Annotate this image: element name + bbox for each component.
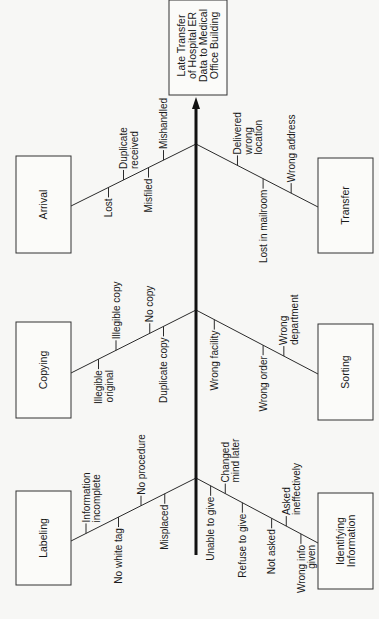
fishbone-canvas: Late Transferof Hospital ERData to Medic… [0, 0, 379, 619]
cause-label-line: Illegible copy [111, 282, 122, 340]
cause-label-line: Lost in mailroom [258, 190, 269, 263]
cause-label-line: department [289, 294, 300, 345]
cause-label: Wrongdepartment [278, 294, 300, 345]
cause-label-line: Asked [281, 487, 292, 515]
cause-label-line: Duplicate [118, 127, 129, 169]
cause-label-line: received [129, 131, 140, 169]
category-label: Copying [37, 351, 49, 390]
cause-label: Mishandled [158, 98, 169, 149]
category-sorting: SortingWrong facilityWrong orderWrongdep… [209, 294, 373, 420]
cause-label-line: wrong [243, 127, 254, 155]
effect-box: Late Transferof Hospital ERData to Medic… [169, 0, 227, 95]
cause-label: Wrong order [258, 356, 269, 412]
cause-label: Duplicate copy [158, 337, 169, 403]
category-label: IdentifyingInformation [334, 515, 357, 568]
cause-label-line: Refuse to give [237, 513, 248, 577]
cause-label-line: Illegible [93, 370, 104, 404]
category-label-line: Copying [37, 351, 49, 390]
category-copying: CopyingIllegibleoriginalIllegible copyNo… [16, 282, 169, 418]
cause-label-line: Wrong info [296, 544, 307, 593]
cause-label-line: Duplicate copy [158, 337, 169, 403]
category-arrival: ArrivalLostDuplicatereceivedMisfiledMish… [16, 98, 169, 253]
category-label-line: Labeling [37, 518, 49, 558]
effect-label-line: Office Building [208, 12, 220, 80]
cause-label-line: Misplaced [159, 505, 170, 550]
cause-label: No white tag [113, 528, 124, 584]
cause-label: Wrong address [286, 114, 297, 182]
cause-label-line: Not asked [266, 529, 277, 574]
cause-label: Illegibleoriginal [93, 370, 115, 404]
cause-label: Informationincomplete [81, 472, 103, 522]
cause-label-line: Information [81, 472, 92, 522]
category-label: Transfer [339, 186, 351, 225]
cause-label: Not asked [266, 529, 277, 574]
cause-label-line: Wrong address [286, 114, 297, 182]
cause-label-line: original [104, 370, 115, 402]
fishbone-diagram: Late Transferof Hospital ERData to Medic… [0, 0, 379, 619]
category-label-line: Information [345, 515, 357, 568]
category-label: Arrival [37, 190, 49, 220]
cause-label: Changedmind later [220, 438, 242, 483]
arrow-head-icon [192, 97, 200, 109]
cause-label-line: Delivered [232, 112, 243, 154]
cause-label-line: mind later [230, 438, 241, 483]
cause-label: Duplicatereceived [118, 127, 140, 169]
cause-label-line: No white tag [113, 528, 124, 584]
cause-label-line: Changed [220, 442, 231, 483]
effect-label: Late Transferof Hospital ERData to Medic… [175, 9, 220, 82]
cause-label-line: Wrong [278, 316, 289, 345]
cause-label: Misfiled [143, 179, 154, 213]
cause-label: Misplaced [159, 505, 170, 550]
category-transfer: TransferDeliveredwronglocationLost in ma… [232, 112, 373, 263]
category-labeling: LabelingInformationincompleteNo white ta… [16, 434, 170, 585]
cause-label-line: Unable to give [205, 496, 216, 560]
cause-label-line: Wrong facility [209, 331, 220, 391]
cause-label: Refuse to give [237, 513, 248, 577]
cause-label-line: incomplete [91, 474, 102, 523]
cause-label-line: Lost [103, 198, 114, 217]
category-bone [71, 310, 196, 373]
cause-label: Askedineffectively [281, 463, 303, 515]
cause-label-line: given [306, 545, 317, 569]
cause-label-line: Mishandled [158, 98, 169, 149]
cause-label-line: location [253, 120, 264, 154]
cause-label: Unable to give [205, 496, 216, 560]
cause-label-line: Misfiled [143, 179, 154, 213]
cause-label-line: No procedure [136, 434, 147, 495]
cause-label: Wrong infogiven [296, 544, 318, 593]
cause-label: Lost in mailroom [258, 190, 269, 263]
category-label-line: Transfer [339, 186, 351, 225]
cause-label-line: Wrong order [258, 356, 269, 412]
cause-label: Wrong facility [209, 331, 220, 391]
cause-label: No procedure [136, 434, 147, 495]
category-label-line: Arrival [37, 190, 49, 220]
category-label: Sorting [339, 355, 351, 388]
cause-label: Deliveredwronglocation [232, 112, 264, 155]
cause-label: Lost [103, 198, 114, 217]
cause-label: Illegible copy [111, 282, 122, 340]
cause-label-line: ineffectively [291, 463, 302, 515]
category-label-line: Sorting [339, 355, 351, 388]
category-label: Labeling [37, 518, 49, 558]
cause-label-line: No copy [144, 286, 155, 323]
category-identifying-information: IdentifyingInformationUnable to giveChan… [205, 438, 373, 593]
cause-label: No copy [144, 286, 155, 323]
